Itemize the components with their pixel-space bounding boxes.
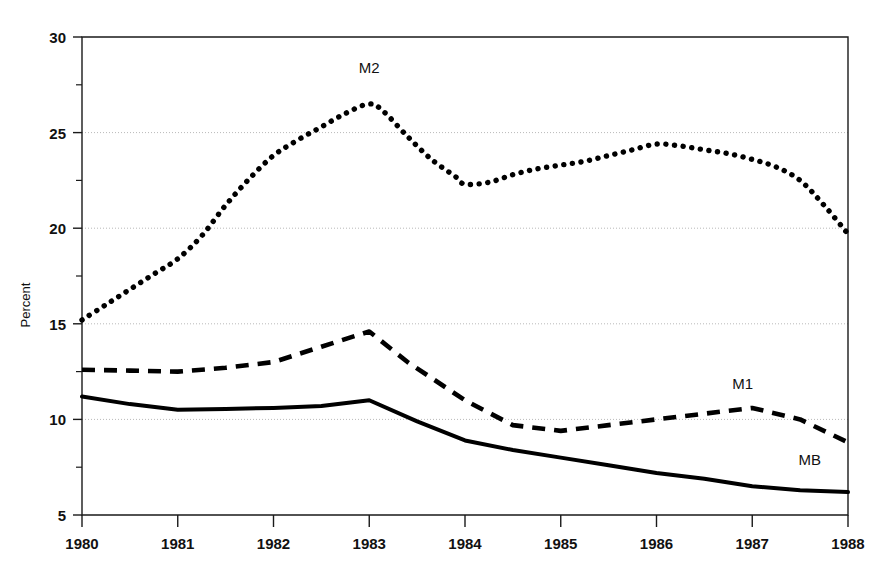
series-label-m2: M2 bbox=[359, 59, 380, 76]
y-tick-label-15: 15 bbox=[49, 316, 66, 333]
y-axis-title: Percent bbox=[18, 282, 33, 327]
x-tick-label-1982: 1982 bbox=[257, 535, 290, 552]
x-tick-label-1980: 1980 bbox=[65, 535, 98, 552]
chart-background bbox=[0, 0, 870, 573]
x-tick-label-1985: 1985 bbox=[544, 535, 577, 552]
series-label-mb: MB bbox=[798, 451, 821, 468]
y-tick-label-10: 10 bbox=[49, 411, 66, 428]
series-label-m1: M1 bbox=[732, 375, 753, 392]
y-tick-label-25: 25 bbox=[49, 125, 66, 142]
x-tick-label-1983: 1983 bbox=[353, 535, 386, 552]
y-tick-label-5: 5 bbox=[58, 507, 66, 524]
x-tick-label-1986: 1986 bbox=[640, 535, 673, 552]
money-growth-line-chart: 51015202530 1980198119821983198419851986… bbox=[0, 0, 870, 573]
x-tick-label-1981: 1981 bbox=[161, 535, 194, 552]
x-tick-label-1988: 1988 bbox=[831, 535, 864, 552]
chart-canvas: 51015202530 1980198119821983198419851986… bbox=[0, 0, 870, 573]
x-tick-label-1984: 1984 bbox=[448, 535, 482, 552]
y-tick-label-20: 20 bbox=[49, 220, 66, 237]
x-axis-tick-labels: 198019811982198319841985198619871988 bbox=[65, 535, 864, 552]
x-tick-label-1987: 1987 bbox=[736, 535, 769, 552]
y-tick-label-30: 30 bbox=[49, 29, 66, 46]
